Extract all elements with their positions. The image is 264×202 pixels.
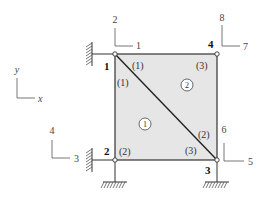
svg-text:1: 1 — [143, 120, 147, 129]
node-label-3: 3 — [205, 164, 211, 176]
element-2-badge: 2 — [181, 79, 193, 91]
fem-diagram: 2 1 8 7 4 3 6 5 y x 1 2 3 4 (1) (2) (3) … — [0, 0, 264, 202]
node-4-marker — [215, 52, 219, 56]
elem2-local-1: (1) — [132, 60, 144, 72]
svg-text:2: 2 — [185, 81, 189, 90]
elem1-local-1: (1) — [117, 77, 129, 89]
dof-label-6: 6 — [222, 124, 227, 135]
y-axis-label: y — [14, 64, 20, 75]
node-label-2: 2 — [104, 145, 110, 157]
dof-label-7: 7 — [243, 41, 248, 52]
elem1-local-2: (2) — [119, 146, 131, 158]
axes-bracket — [17, 78, 35, 98]
node-3-marker — [215, 158, 219, 162]
elem1-local-3: (3) — [185, 145, 197, 157]
dof-label-8: 8 — [220, 12, 225, 23]
dof-label-4: 4 — [50, 125, 55, 136]
node-1-marker — [113, 52, 117, 56]
fixed-support-node-1 — [86, 42, 115, 66]
dof-label-5: 5 — [248, 156, 253, 167]
dof-bracket-node-2 — [52, 140, 70, 158]
dof-bracket-node-4 — [222, 25, 240, 46]
dof-bracket-node-3 — [224, 143, 244, 161]
dof-label-1: 1 — [136, 40, 141, 51]
elem2-local-2: (2) — [198, 129, 210, 141]
element-1-badge: 1 — [139, 118, 151, 130]
elem2-local-3: (3) — [196, 60, 208, 72]
node-label-1: 1 — [104, 60, 110, 72]
node-2-marker — [113, 158, 117, 162]
dof-label-2: 2 — [113, 14, 118, 25]
dof-bracket-node-1 — [115, 28, 133, 46]
dof-label-3: 3 — [74, 153, 79, 164]
node-label-4: 4 — [208, 38, 214, 50]
x-axis-label: x — [37, 93, 43, 104]
